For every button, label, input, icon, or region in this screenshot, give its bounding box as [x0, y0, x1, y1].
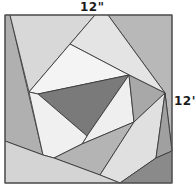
quilt-block-diagram — [0, 0, 195, 188]
quilt-pieces — [5, 15, 172, 183]
